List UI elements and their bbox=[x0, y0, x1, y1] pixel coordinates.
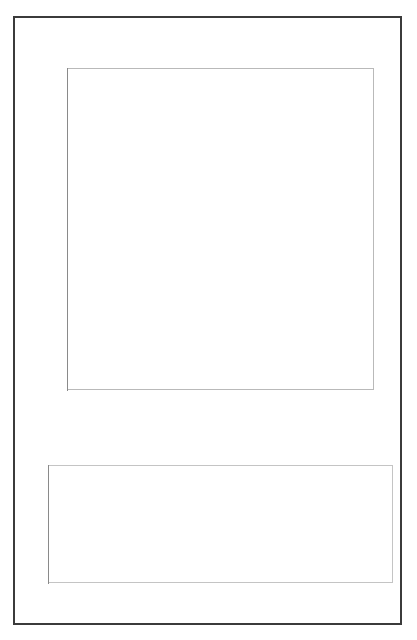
belastung-chart bbox=[15, 450, 404, 625]
chart-legend bbox=[15, 418, 404, 444]
top-chart-rows bbox=[15, 68, 404, 390]
bottom-y-tick-labels bbox=[15, 450, 48, 600]
bottom-chart-bars bbox=[48, 465, 393, 584]
figure-page bbox=[0, 0, 417, 640]
training-km-chart bbox=[15, 18, 404, 448]
top-x-tick-labels bbox=[15, 396, 404, 410]
figure-frame bbox=[13, 16, 402, 625]
